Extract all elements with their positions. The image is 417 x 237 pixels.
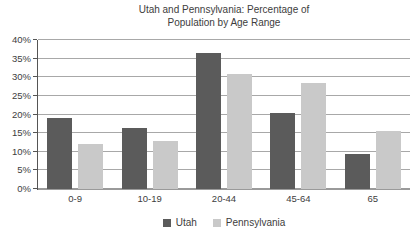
x-tick-label: 0-9 [38,193,112,204]
bar-chart: Utah and Pennsylvania: Percentage of Pop… [0,0,417,237]
bar-groups [38,40,410,189]
y-tick-label: 30% [0,71,31,82]
bar-utah-20-44 [196,53,221,189]
bar-utah-0-9 [47,118,72,189]
x-tick-label: 45-64 [261,193,335,204]
bar-pennsylvania-0-9 [78,144,103,189]
bar-group-0-9 [38,40,112,189]
legend-label: Utah [176,217,197,228]
y-tick-label: 10% [0,146,31,157]
bar-group-10-19 [112,40,186,189]
y-tick-label: 25% [0,90,31,101]
bar-utah-45-64 [270,113,295,189]
x-tick-label: 10-19 [112,193,186,204]
chart-title-line-2: Population by Age Range [38,16,410,29]
y-tick [33,95,37,96]
y-tick [33,132,37,133]
legend: UtahPennsylvania [38,217,410,228]
chart-title: Utah and Pennsylvania: Percentage of Pop… [38,3,410,29]
y-tick [33,169,37,170]
bar-group-20-44 [187,40,261,189]
y-tick-label: 20% [0,109,31,120]
y-tick-label: 35% [0,53,31,64]
y-tick [33,188,37,189]
bar-pennsylvania-10-19 [153,141,178,189]
legend-swatch-icon [213,219,221,227]
x-tick-label: 20-44 [187,193,261,204]
bar-pennsylvania-45-64 [301,83,326,189]
y-tick [33,39,37,40]
legend-swatch-icon [163,219,171,227]
legend-label: Pennsylvania [226,217,285,228]
bar-utah-65 [345,154,370,189]
y-tick [33,151,37,152]
bar-utah-10-19 [122,128,147,189]
chart-title-line-1: Utah and Pennsylvania: Percentage of [38,3,410,16]
y-tick-label: 40% [0,34,31,45]
y-tick-label: 15% [0,127,31,138]
y-tick-label: 0% [0,183,31,194]
bar-group-45-64 [261,40,335,189]
x-tick-label: 65 [336,193,410,204]
bar-pennsylvania-65 [376,131,401,189]
y-tick-label: 5% [0,164,31,175]
legend-item-pennsylvania: Pennsylvania [213,217,285,228]
x-axis-labels: 0-910-1920-4445-6465 [38,193,410,204]
legend-item-utah: Utah [163,217,197,228]
y-tick [33,114,37,115]
y-tick [33,58,37,59]
y-axis-labels: 0%5%10%15%20%25%30%35%40% [0,40,31,189]
plot-area [38,40,410,189]
bar-group-65 [336,40,410,189]
bar-pennsylvania-20-44 [227,74,252,189]
y-tick [33,76,37,77]
